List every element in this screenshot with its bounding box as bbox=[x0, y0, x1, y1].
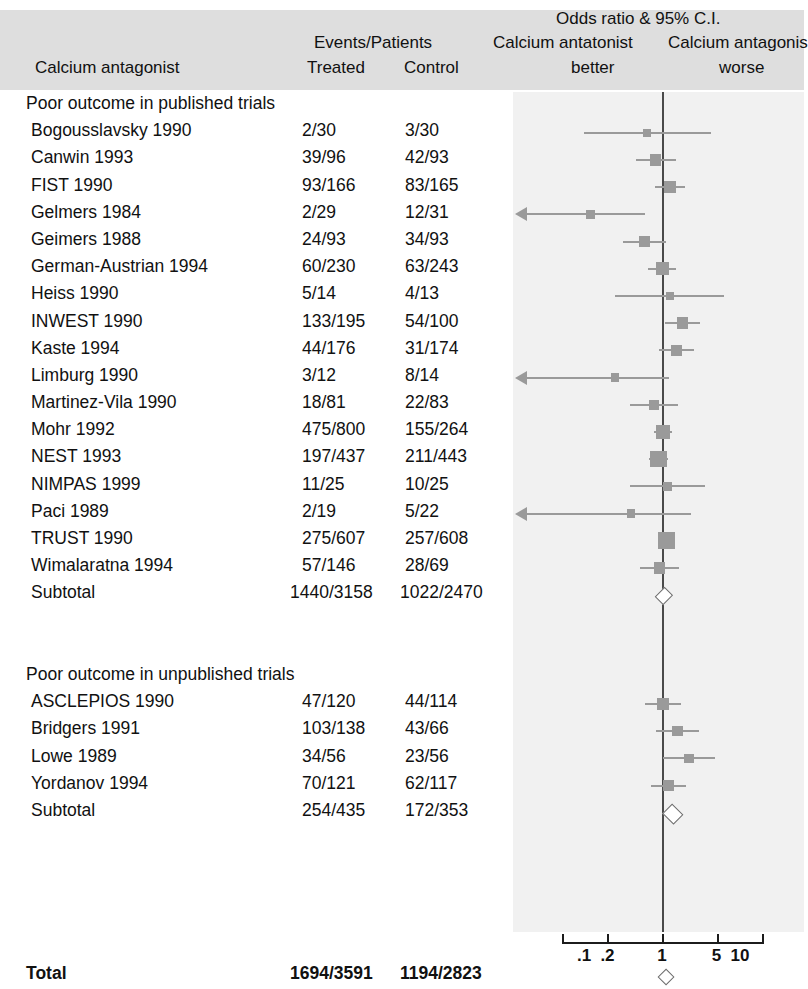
treated-events: 275/607 bbox=[302, 528, 422, 549]
summary-diamond bbox=[657, 968, 674, 985]
null-effect-line bbox=[662, 92, 664, 932]
treated-events: 2/29 bbox=[302, 202, 422, 223]
table-row[interactable]: Limburg 19903/128/14 bbox=[0, 364, 513, 391]
study-label: Martinez-Vila 1990 bbox=[31, 392, 177, 413]
study-label: Lowe 1989 bbox=[31, 746, 117, 767]
study-label: Subtotal bbox=[31, 582, 95, 603]
table-row[interactable]: Martinez-Vila 199018/8122/83 bbox=[0, 391, 513, 418]
control-events: 155/264 bbox=[405, 419, 525, 440]
table-row[interactable]: NEST 1993197/437211/443 bbox=[0, 445, 513, 472]
study-label: ASCLEPIOS 1990 bbox=[31, 691, 174, 712]
column-header-events-patients: Events/Patients bbox=[314, 33, 432, 53]
column-header-control: Control bbox=[404, 58, 459, 78]
study-label: Bridgers 1991 bbox=[31, 718, 140, 739]
axis-tick-label: .2 bbox=[600, 946, 614, 966]
control-events: 28/69 bbox=[405, 555, 525, 576]
table-row[interactable]: TRUST 1990275/607257/608 bbox=[0, 527, 513, 554]
axis-label-left-2: better bbox=[571, 58, 614, 78]
control-events: 44/114 bbox=[405, 691, 525, 712]
table-row[interactable]: INWEST 1990133/19554/100 bbox=[0, 310, 513, 337]
table-row[interactable]: Wimalaratna 199457/14628/69 bbox=[0, 554, 513, 581]
treated-events: 93/166 bbox=[302, 175, 422, 196]
table-row[interactable]: Bridgers 1991103/13843/66 bbox=[0, 717, 513, 744]
study-label: Wimalaratna 1994 bbox=[31, 555, 173, 576]
treated-events: 44/176 bbox=[302, 338, 422, 359]
column-header-trial: Calcium antagonist bbox=[35, 58, 180, 78]
table-row[interactable]: Bogousslavsky 19902/303/30 bbox=[0, 119, 513, 146]
control-events: 23/56 bbox=[405, 746, 525, 767]
table-row[interactable]: Gelmers 19842/2912/31 bbox=[0, 201, 513, 228]
plot-title: Odds ratio & 95% C.I. bbox=[556, 9, 720, 29]
treated-events: 254/435 bbox=[302, 800, 422, 821]
control-events: 34/93 bbox=[405, 229, 525, 250]
treated-events: 24/93 bbox=[302, 229, 422, 250]
table-row[interactable]: Lowe 198934/5623/56 bbox=[0, 745, 513, 772]
study-label: Limburg 1990 bbox=[31, 365, 138, 386]
control-events: 211/443 bbox=[405, 446, 525, 467]
study-label: Mohr 1992 bbox=[31, 419, 115, 440]
table-row[interactable]: Yordanov 199470/12162/117 bbox=[0, 772, 513, 799]
study-label: Paci 1989 bbox=[31, 501, 109, 522]
control-events: 63/243 bbox=[405, 256, 525, 277]
table-row[interactable]: Paci 19892/195/22 bbox=[0, 500, 513, 527]
section-heading: Poor outcome in unpublished trials bbox=[26, 664, 295, 685]
treated-events: 60/230 bbox=[302, 256, 422, 277]
treated-events: 39/96 bbox=[302, 147, 422, 168]
table-row[interactable]: Geimers 198824/9334/93 bbox=[0, 228, 513, 255]
table-row[interactable]: Mohr 1992475/800155/264 bbox=[0, 418, 513, 445]
study-label: Canwin 1993 bbox=[31, 147, 133, 168]
axis-label-left: Calcium antatonist bbox=[493, 33, 633, 53]
table-row[interactable]: Heiss 19905/144/13 bbox=[0, 282, 513, 309]
control-events: 43/66 bbox=[405, 718, 525, 739]
control-events: 54/100 bbox=[405, 311, 525, 332]
study-label: NEST 1993 bbox=[31, 446, 121, 467]
axis-tick bbox=[662, 934, 664, 944]
study-label: Bogousslavsky 1990 bbox=[31, 120, 192, 141]
spacer-row bbox=[0, 826, 513, 853]
table-row[interactable]: ASCLEPIOS 199047/12044/114 bbox=[0, 690, 513, 717]
table-row[interactable]: Kaste 199444/17631/174 bbox=[0, 337, 513, 364]
axis-tick-label: 10 bbox=[731, 946, 750, 966]
treated-events: 57/146 bbox=[302, 555, 422, 576]
study-label: Kaste 1994 bbox=[31, 338, 120, 359]
table-row[interactable]: FIST 199093/16683/165 bbox=[0, 174, 513, 201]
treated-events: 5/14 bbox=[302, 283, 422, 304]
axis-tick-label: .1 bbox=[577, 946, 591, 966]
axis-tick bbox=[717, 934, 719, 944]
table-row[interactable]: Subtotal1440/31581022/2470 bbox=[0, 581, 513, 608]
axis-tick-label: 5 bbox=[712, 946, 721, 966]
treated-events: 103/138 bbox=[302, 718, 422, 739]
study-label: Heiss 1990 bbox=[31, 283, 119, 304]
study-label: Geimers 1988 bbox=[31, 229, 141, 250]
study-label: NIMPAS 1999 bbox=[31, 474, 141, 495]
section-heading-row: Poor outcome in published trials bbox=[0, 92, 513, 119]
control-events: 62/117 bbox=[405, 773, 525, 794]
study-label: Yordanov 1994 bbox=[31, 773, 148, 794]
axis-tick-label: 1 bbox=[657, 946, 666, 966]
control-events: 1022/2470 bbox=[400, 582, 520, 603]
control-events: 8/14 bbox=[405, 365, 525, 386]
treated-events: 18/81 bbox=[302, 392, 422, 413]
treated-events: 2/19 bbox=[302, 501, 422, 522]
study-label: INWEST 1990 bbox=[31, 311, 143, 332]
control-events: 4/13 bbox=[405, 283, 525, 304]
axis-label-right: Calcium antagonis bbox=[668, 33, 808, 53]
plot-area bbox=[513, 92, 804, 932]
x-axis: .1.21510 bbox=[0, 932, 804, 968]
axis-tick bbox=[607, 934, 609, 944]
study-label: FIST 1990 bbox=[31, 175, 112, 196]
control-events: 83/165 bbox=[405, 175, 525, 196]
table-row[interactable]: Canwin 199339/9642/93 bbox=[0, 146, 513, 173]
control-events: 12/31 bbox=[405, 202, 525, 223]
axis-label-right-2: worse bbox=[719, 58, 764, 78]
control-events: 5/22 bbox=[405, 501, 525, 522]
study-label: Subtotal bbox=[31, 800, 95, 821]
treated-events: 70/121 bbox=[302, 773, 422, 794]
axis-cap-right bbox=[762, 934, 764, 944]
table-row[interactable]: NIMPAS 199911/2510/25 bbox=[0, 473, 513, 500]
axis-cap-left bbox=[562, 934, 564, 944]
spacer-row bbox=[0, 908, 513, 935]
spacer-row bbox=[0, 880, 513, 907]
table-row[interactable]: German-Austrian 199460/23063/243 bbox=[0, 255, 513, 282]
table-row[interactable]: Subtotal254/435172/353 bbox=[0, 799, 513, 826]
